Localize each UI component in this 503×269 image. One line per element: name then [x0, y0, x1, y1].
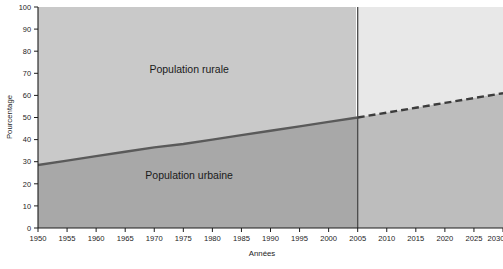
x-tick-label: 2005 — [349, 234, 366, 243]
x-tick-label: 1975 — [175, 234, 192, 243]
x-tick-label: 1955 — [59, 234, 76, 243]
x-tick-label: 2030 — [488, 234, 503, 243]
region-label-rural: Population rurale — [149, 63, 229, 75]
x-tick-label: 1985 — [233, 234, 250, 243]
x-tick-label: 2025 — [465, 234, 482, 243]
x-tick-label: 2020 — [436, 234, 453, 243]
x-tick-label: 1995 — [291, 234, 308, 243]
y-tick-label: 60 — [23, 91, 31, 100]
x-tick-label: 1980 — [204, 234, 221, 243]
y-tick-label: 80 — [23, 47, 31, 56]
y-tick-label: 50 — [23, 113, 31, 122]
y-tick-label: 20 — [23, 180, 31, 189]
population-chart: 0102030405060708090100 Pourcentage 19501… — [0, 0, 503, 269]
x-tick-label: 2010 — [378, 234, 395, 243]
x-tick-label: 1960 — [88, 234, 105, 243]
x-axis-title: Années — [249, 249, 276, 258]
y-tick-label: 30 — [23, 157, 31, 166]
x-tick-label: 2000 — [320, 234, 337, 243]
y-tick-label: 90 — [23, 25, 31, 34]
chart-container: 0102030405060708090100 Pourcentage 19501… — [0, 0, 503, 269]
x-tick-label: 1970 — [146, 234, 163, 243]
y-tick-label: 0 — [27, 224, 31, 233]
y-axis-title: Pourcentage — [5, 95, 14, 139]
x-tick-label: 1965 — [117, 234, 134, 243]
y-tick-label: 70 — [23, 69, 31, 78]
y-tick-label: 40 — [23, 135, 31, 144]
y-tick-label: 10 — [23, 202, 31, 211]
region-label-urban: Population urbaine — [145, 169, 233, 181]
plot-area — [38, 7, 503, 228]
y-tick-label: 100 — [19, 3, 31, 12]
x-tick-label: 1990 — [262, 234, 279, 243]
x-tick-label: 2015 — [407, 234, 424, 243]
x-tick-label: 1950 — [30, 234, 47, 243]
